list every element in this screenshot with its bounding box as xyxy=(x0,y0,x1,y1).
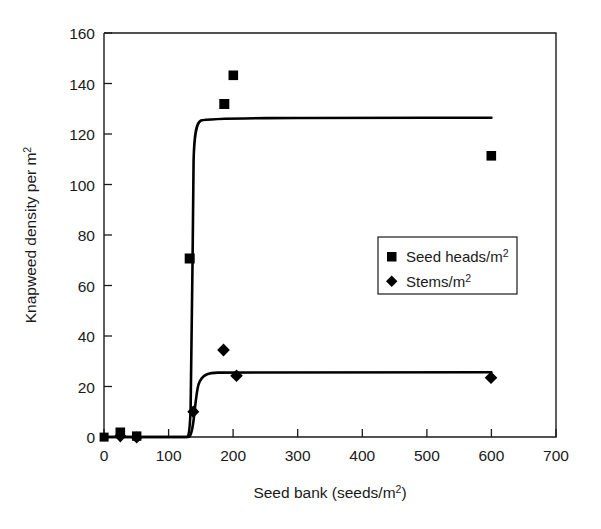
y-tick-label-60: 60 xyxy=(78,278,96,295)
y-tick-label-160: 160 xyxy=(69,25,95,42)
x-tick-label-600: 600 xyxy=(478,447,504,464)
svg-text:Knapweed density per m2: Knapweed density per m2 xyxy=(21,147,39,324)
data-point-square xyxy=(185,254,195,264)
x-tick-label-400: 400 xyxy=(349,447,375,464)
y-tick-label-140: 140 xyxy=(69,76,95,93)
y-axis-title-superscript: 2 xyxy=(21,147,33,153)
y-axis-title-text: Knapweed density per m xyxy=(22,153,39,324)
y-tick-label-0: 0 xyxy=(86,429,95,446)
y-axis: 0 20 40 60 80 100 120 140 160 xyxy=(69,25,112,446)
chart-canvas: 0 20 40 60 80 100 120 140 160 Knapweed d… xyxy=(0,0,601,529)
x-axis-title-tail: ) xyxy=(401,484,406,501)
y-tick-label-100: 100 xyxy=(69,177,95,194)
data-point-square xyxy=(229,71,239,81)
x-tick-label-500: 500 xyxy=(414,447,440,464)
fit-curve-stems xyxy=(104,372,491,437)
x-tick-label-100: 100 xyxy=(156,447,182,464)
svg-text:Seed heads/m2: Seed heads/m2 xyxy=(406,247,509,265)
data-point-square xyxy=(219,99,229,109)
x-tick-label-200: 200 xyxy=(220,447,246,464)
legend-square-icon xyxy=(387,252,397,262)
data-point-square xyxy=(100,433,109,442)
y-tick-group xyxy=(104,33,112,437)
chart-legend[interactable]: Seed heads/m2 Stems/m2 xyxy=(378,237,517,294)
svg-text:Stems/m2: Stems/m2 xyxy=(406,272,471,290)
series-stems-markers xyxy=(114,344,497,444)
data-point-square xyxy=(487,151,497,161)
legend-entry-seed-heads[interactable]: Seed heads/m2 xyxy=(387,247,509,265)
y-tick-label-80: 80 xyxy=(78,227,96,244)
y-tick-label-40: 40 xyxy=(78,328,96,345)
y-axis-title: Knapweed density per m2 xyxy=(21,147,39,324)
legend-label-seed-heads: Seed heads/m xyxy=(406,248,503,265)
x-axis-title: Seed bank (seeds/m2) xyxy=(253,483,406,501)
legend-label-stems-superscript: 2 xyxy=(465,272,471,284)
chart-figure: 0 20 40 60 80 100 120 140 160 Knapweed d… xyxy=(0,0,601,529)
y-tick-label-120: 120 xyxy=(69,126,95,143)
x-axis: 0 100 200 300 400 500 600 700 xyxy=(100,429,570,464)
x-axis-title-text: Seed bank (seeds/m xyxy=(253,484,395,501)
x-tick-label-700: 700 xyxy=(543,447,569,464)
svg-text:Seed bank (seeds/m2): Seed bank (seeds/m2) xyxy=(253,483,406,501)
legend-label-stems: Stems/m xyxy=(406,273,465,290)
legend-label-seed-heads-superscript: 2 xyxy=(503,247,509,259)
x-tick-label-300: 300 xyxy=(285,447,311,464)
x-tick-label-0: 0 xyxy=(100,447,109,464)
y-tick-label-20: 20 xyxy=(78,379,96,396)
data-point-diamond xyxy=(217,344,230,357)
